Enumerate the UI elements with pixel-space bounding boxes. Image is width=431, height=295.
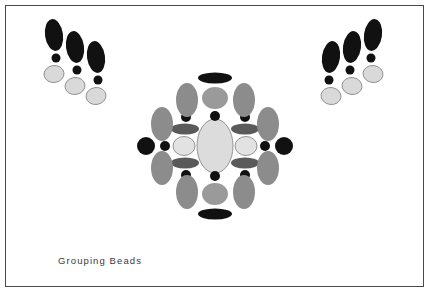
figure-caption: Grouping Beads — [58, 255, 142, 266]
figure-border — [5, 5, 424, 287]
figure-root: Grouping Beads — [0, 0, 431, 295]
